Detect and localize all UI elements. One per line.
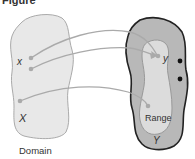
domain-element-label: x (16, 56, 23, 67)
domain-point-3 (18, 99, 23, 104)
figure-title: Figure (2, 0, 36, 6)
range-point-2 (146, 104, 151, 109)
codomain-dot-2 (178, 77, 183, 82)
range-label: Range (145, 113, 172, 123)
domain-caption: Domain (19, 145, 52, 156)
domain-set-label: X (18, 112, 27, 124)
domain-point-2 (29, 67, 34, 72)
domain-point-1 (29, 56, 34, 61)
range-point-y (156, 54, 161, 59)
function-mapping-diagram: Figure x X y Range Y Domain (0, 0, 195, 159)
range-element-label: y (162, 53, 169, 64)
codomain-dot-1 (178, 59, 183, 64)
